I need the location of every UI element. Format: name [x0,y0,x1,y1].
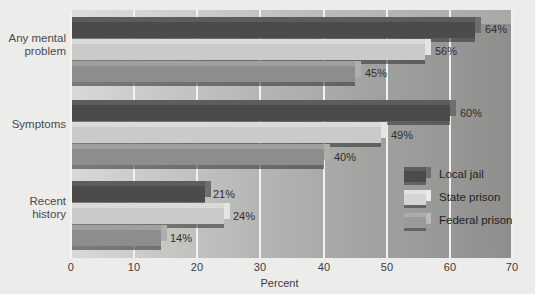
bar-side-face [355,61,361,77]
bar-symptoms-local-jail [72,105,450,121]
legend-swatch-federal-prison [404,217,426,228]
swatch-shadow [404,205,426,208]
swatch-shadow [404,182,426,185]
value-label-any-mental-problem-local-jail: 64% [485,23,507,35]
x-tick-70: 70 [497,261,527,273]
x-tick-30: 30 [245,261,275,273]
x-tick-10: 10 [119,261,149,273]
x-tick-60: 60 [435,261,465,273]
bar-shadow [72,165,324,169]
bar-side-face [381,122,387,138]
bar-any-mental-problem-federal-prison [72,66,355,82]
bar-chart: Any mental problem 64% 56% 45% Symptoms … [0,0,535,294]
bar-side-face [224,203,230,219]
bar-side-face [425,39,431,55]
bar-front-face [72,105,450,121]
bar-front-face [72,22,475,38]
bar-any-mental-problem-state-prison [72,44,425,60]
bar-front-face [72,208,224,224]
x-tick-20: 20 [182,261,212,273]
bar-recent-history-state-prison [72,208,224,224]
x-tick-40: 40 [309,261,339,273]
bar-recent-history-local-jail [72,186,205,202]
swatch-front-face [404,171,426,182]
swatch-front-face [404,194,426,205]
swatch-front-face [404,217,426,228]
bar-front-face [72,149,324,165]
bar-side-face [450,100,456,116]
legend-swatch-local-jail [404,171,426,182]
category-label-line-1: Any mental [0,32,66,45]
swatch-shadow [404,228,426,231]
bar-symptoms-federal-prison [72,149,324,165]
legend-label-local-jail: Local jail [439,168,484,180]
bar-front-face [72,230,161,246]
x-tick-50: 50 [372,261,402,273]
bar-side-face [475,17,481,33]
category-label-line-2: problem [0,45,66,58]
x-axis-title-text: Percent [261,277,299,289]
value-label-recent-history-local-jail: 21% [213,188,235,200]
value-label-recent-history-federal-prison: 14% [170,232,192,244]
legend-label-state-prison: State prison [439,191,500,203]
bar-symptoms-state-prison [72,127,381,143]
bar-shadow [72,246,161,250]
legend-label-federal-prison: Federal prison [439,214,513,226]
legend-swatch-state-prison [404,194,426,205]
x-tick-0: 0 [56,261,86,273]
category-label-line-1: Recent [0,195,66,208]
value-label-any-mental-problem-federal-prison: 45% [365,67,387,79]
value-label-symptoms-federal-prison: 40% [334,151,356,163]
bar-front-face [72,44,425,60]
swatch-side-face [426,190,431,201]
bar-front-face [72,66,355,82]
category-label-line-2: history [0,208,66,221]
bar-side-face [324,144,330,160]
bar-side-face [205,181,211,197]
value-label-symptoms-local-jail: 60% [460,107,482,119]
bar-front-face [72,186,205,202]
category-label-symptoms: Symptoms [0,118,66,131]
bar-front-face [72,127,381,143]
bar-any-mental-problem-local-jail [72,22,475,38]
bar-shadow [72,82,355,86]
x-axis-title: Percent [0,277,535,289]
value-label-any-mental-problem-state-prison: 56% [435,45,457,57]
bar-recent-history-federal-prison [72,230,161,246]
swatch-side-face [426,213,431,224]
value-label-recent-history-state-prison: 24% [233,210,255,222]
category-label-any-mental-problem: Any mental problem [0,32,66,58]
category-label-recent-history: Recent history [0,195,66,221]
swatch-side-face [426,167,431,178]
category-label-line-1: Symptoms [0,118,66,131]
bar-side-face [161,225,167,241]
value-label-symptoms-state-prison: 49% [391,129,413,141]
